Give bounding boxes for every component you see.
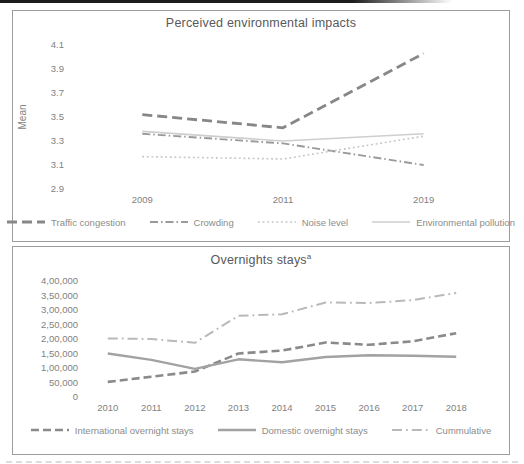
- y-axis-tick-label: 3.9: [51, 63, 64, 74]
- y-axis-tick-label: 50,000: [49, 377, 78, 388]
- scanned-figure-page: Perceived environmental impacts 2.93.13.…: [0, 0, 524, 464]
- x-axis-tick-label: 2013: [228, 402, 249, 413]
- legend-label: Crowding: [194, 217, 234, 228]
- y-axis-title: Mean: [17, 104, 28, 129]
- y-axis-tick-label: 3.7: [51, 87, 64, 98]
- legend-line-swatch: [258, 218, 296, 226]
- scan-artifact-top-strip: [0, 0, 452, 3]
- y-axis-tick-label: 0: [73, 391, 78, 402]
- chart-title-environmental-impacts: Perceived environmental impacts: [166, 16, 356, 30]
- y-axis-tick-label: 2.9: [51, 183, 64, 194]
- series-line-noise-level: [142, 136, 423, 159]
- series-line-domestic-overnight-stays: [108, 354, 456, 369]
- legend-label: Traffic congestion: [51, 217, 125, 228]
- legend-line-swatch: [372, 218, 410, 226]
- series-line-international-overnight-stays: [108, 333, 456, 382]
- y-axis-tick-label: 3.3: [51, 135, 64, 146]
- chart-title-text: Perceived environmental impacts: [166, 16, 356, 30]
- legend-label: Environmental pollution: [416, 217, 515, 228]
- scan-artifact-bottom-strip: [6, 461, 518, 463]
- y-axis-tick-label: 3.5: [51, 111, 64, 122]
- chart-title-overnight-stays: Overnights staysa: [211, 252, 312, 267]
- legend-line-swatch: [7, 218, 45, 226]
- chart-title-superscript: a: [307, 252, 312, 261]
- x-axis-tick-label: 2014: [271, 402, 292, 413]
- y-axis-tick-label: 1,00,000: [41, 362, 78, 373]
- y-axis-tick-label: 3.1: [51, 159, 64, 170]
- legend-item-domestic-overnight-stays: Domestic overnight stays: [218, 425, 368, 436]
- x-axis-tick-label: 2015: [315, 402, 336, 413]
- y-axis-tick-label: 1,50,000: [41, 348, 78, 359]
- series-line-crowding: [142, 134, 423, 165]
- x-axis-tick-label: 2018: [446, 402, 467, 413]
- y-axis-tick-label: 2,00,000: [41, 333, 78, 344]
- y-axis-tick-label: 3,00,000: [41, 304, 78, 315]
- legend-label: Noise level: [302, 217, 348, 228]
- legend-item-noise-level: Noise level: [258, 217, 348, 228]
- x-axis-tick-label: 2017: [402, 402, 423, 413]
- y-axis-tick-label: 2,50,000: [41, 319, 78, 330]
- legend-line-swatch: [218, 426, 256, 434]
- legend-item-traffic-congestion: Traffic congestion: [7, 217, 125, 228]
- legend-item-cummulative: Cummulative: [392, 425, 491, 436]
- legend-environmental-impacts: Traffic congestionCrowdingNoise levelEnv…: [13, 209, 509, 235]
- chart-panel-overnight-stays: Overnights staysa 050,0001,00,0001,50,00…: [12, 246, 510, 455]
- legend-label: International overnight stays: [75, 425, 194, 436]
- y-axis-tick-label: 3,50,000: [41, 290, 78, 301]
- line-chart-environmental-impacts: 2.93.13.33.53.73.94.1200920112019Mean: [14, 33, 508, 209]
- legend-line-swatch: [150, 218, 188, 226]
- x-axis-tick-label: 2009: [132, 194, 153, 205]
- legend-item-international-overnight-stays: International overnight stays: [31, 425, 194, 436]
- legend-item-crowding: Crowding: [150, 217, 234, 228]
- y-axis-tick-label: 4.1: [51, 39, 64, 50]
- x-axis-tick-label: 2019: [413, 194, 434, 205]
- line-chart-overnight-stays: 050,0001,00,0001,50,0002,00,0002,50,0003…: [14, 270, 508, 416]
- x-axis-tick-label: 2016: [359, 402, 380, 413]
- legend-label: Domestic overnight stays: [262, 425, 368, 436]
- legend-line-swatch: [392, 426, 430, 434]
- x-axis-tick-label: 2011: [141, 402, 161, 413]
- x-axis-tick-label: 2011: [273, 194, 293, 205]
- legend-item-environmental-pollution: Environmental pollution: [372, 217, 515, 228]
- series-line-cummulative: [108, 293, 456, 343]
- x-axis-tick-label: 2010: [97, 402, 118, 413]
- legend-overnight-stays: International overnight staysDomestic ov…: [13, 416, 509, 444]
- y-axis-tick-label: 4,00,000: [41, 275, 78, 286]
- legend-line-swatch: [31, 426, 69, 434]
- chart-panel-perceived-environmental-impacts: Perceived environmental impacts 2.93.13.…: [12, 10, 510, 242]
- chart-title-text: Overnights stays: [211, 253, 307, 267]
- series-line-traffic-congestion: [142, 53, 423, 127]
- x-axis-tick-label: 2012: [184, 402, 205, 413]
- legend-label: Cummulative: [436, 425, 491, 436]
